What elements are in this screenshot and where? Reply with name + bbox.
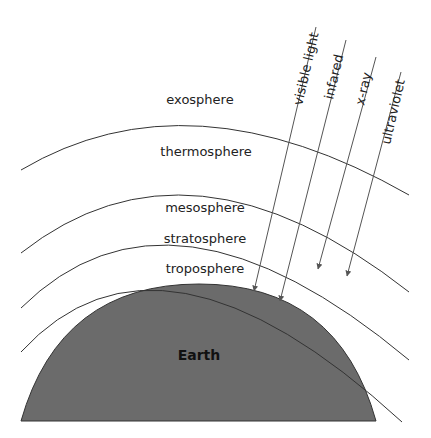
x-ray-label: x-ray	[352, 70, 374, 106]
layer-label-stratosphere: stratosphere	[164, 231, 247, 246]
visible-light-label: visible light	[290, 31, 321, 107]
atmosphere-diagram: exosphere thermosphere mesosphere strato…	[0, 0, 431, 438]
earth-label: Earth	[178, 347, 221, 363]
infared-label: infared	[321, 53, 346, 101]
ultraviolet-label: ultraviolet	[378, 78, 408, 146]
layer-label-thermosphere: thermosphere	[160, 144, 251, 159]
exosphere-boundary	[21, 126, 409, 195]
layer-label-troposphere: troposphere	[166, 261, 245, 276]
layer-label-mesosphere: mesosphere	[165, 200, 245, 215]
layer-label-exosphere: exosphere	[166, 92, 233, 107]
